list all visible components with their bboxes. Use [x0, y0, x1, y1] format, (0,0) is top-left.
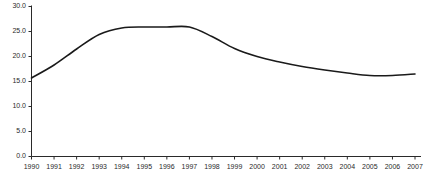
y-axis-tick-label: 25.0 [0, 27, 26, 34]
x-axis-tick-label: 1991 [42, 163, 66, 170]
x-axis-tick-label: 2004 [335, 163, 359, 170]
x-axis-tick-label: 2001 [268, 163, 292, 170]
y-axis-tick-label: 10.0 [0, 102, 26, 109]
data-series-line [32, 26, 416, 78]
y-axis-tick-label: 5.0 [0, 127, 26, 134]
y-axis-tick-label: 30.0 [0, 2, 26, 9]
x-axis-tick-label: 1996 [155, 163, 179, 170]
x-axis-tick-label: 2007 [403, 163, 427, 170]
x-axis-tick-label: 2000 [245, 163, 269, 170]
x-axis-tick-label: 2002 [290, 163, 314, 170]
x-axis-tick-label: 1993 [87, 163, 111, 170]
x-axis-tick-label: 1999 [223, 163, 247, 170]
x-axis-tick-label: 1990 [20, 163, 44, 170]
x-axis-tick-label: 1992 [65, 163, 89, 170]
x-axis-tick-label: 1997 [177, 163, 201, 170]
y-axis-tick-label: 0.0 [0, 152, 26, 159]
x-axis-tick-label: 2005 [358, 163, 382, 170]
x-axis-tick-label: 1994 [110, 163, 134, 170]
x-axis-tick-label: 1998 [200, 163, 224, 170]
x-axis-tick-label: 1995 [132, 163, 156, 170]
x-axis-tick-label: 2006 [380, 163, 404, 170]
y-axis-tick-label: 20.0 [0, 52, 26, 59]
x-axis-tick-label: 2003 [313, 163, 337, 170]
y-axis-tick-label: 15.0 [0, 77, 26, 84]
